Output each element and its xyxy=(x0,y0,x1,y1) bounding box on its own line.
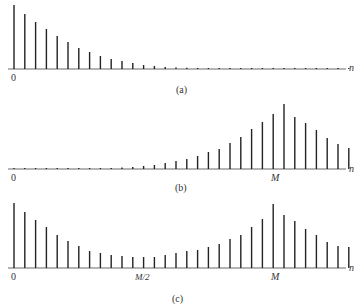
axis-label-c: n xyxy=(349,262,354,273)
caption-b: (b) xyxy=(175,182,187,193)
marker-label-c: M xyxy=(271,271,279,282)
axis-label-b: n xyxy=(349,163,354,174)
axis-label-a: n xyxy=(349,62,354,73)
stem-plots-canvas xyxy=(0,0,359,307)
caption-c: (c) xyxy=(172,293,183,304)
origin-label-a: 0 xyxy=(11,72,16,83)
caption-a: (a) xyxy=(176,84,187,95)
origin-label-c: 0 xyxy=(11,271,16,282)
mid-label-c: M/2 xyxy=(135,272,150,282)
origin-label-b: 0 xyxy=(11,172,16,183)
marker-label-b: M xyxy=(271,172,279,183)
